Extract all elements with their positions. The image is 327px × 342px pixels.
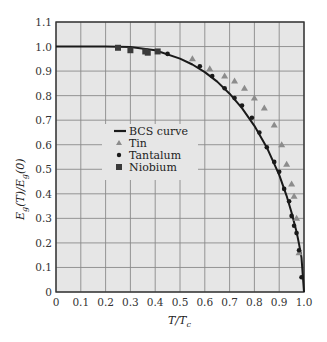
y-tick-label: 1.1 [35,16,52,28]
tantalum-point-icon [292,223,297,228]
y-tick-label: 0.9 [35,65,52,77]
x-tick-label: 0.6 [196,296,213,308]
tantalum-point-icon [294,231,299,236]
tantalum-point-icon [272,160,277,165]
tantalum-point-icon [289,214,294,219]
legend-label-niobium: Niobium [129,161,177,174]
y-tick-label: 0.5 [35,163,52,175]
y-tick-label: 1.0 [35,41,52,53]
chart: 00.10.20.30.40.50.60.70.80.91.0 00.10.20… [0,0,327,342]
tantalum-point-icon [277,169,282,174]
x-tick-label: 0 [53,296,60,308]
x-tick-label: 0.8 [246,296,263,308]
x-axis-label: T/Tc [168,314,191,329]
y-tick-label: 0.6 [35,139,52,151]
x-tick-label: 0.3 [122,296,139,308]
x-tick-label: 0.7 [221,296,238,308]
tantalum-point-icon [287,199,292,204]
legend-square-icon [116,164,122,170]
y-tick-label: 0.4 [35,188,52,200]
y-tick-label: 0.1 [35,261,52,273]
y-tick-label: 0 [45,286,52,298]
x-tick-label: 0.1 [72,296,89,308]
tantalum-point-icon [297,248,302,253]
y-tick-label: 0.7 [35,114,52,126]
tantalum-point-icon [165,52,170,57]
tantalum-point-icon [232,96,237,101]
y-tick-label: 0.3 [35,212,52,224]
legend-dot-icon [117,153,121,157]
tantalum-point-icon [257,130,262,135]
niobium-point-icon [127,47,133,53]
tantalum-point-icon [299,275,304,280]
tantalum-point-icon [210,74,215,79]
x-tick-label: 1.0 [296,296,313,308]
x-axis-ticks: 00.10.20.30.40.50.60.70.80.91.0 [53,296,313,308]
tantalum-point-icon [250,115,255,120]
x-tick-label: 0.2 [97,296,114,308]
niobium-point-icon [155,48,161,54]
y-axis-label: Eg(T)/Eg(0) [14,158,29,221]
niobium-point-icon [115,45,121,51]
y-axis-ticks: 00.10.20.30.40.50.60.70.80.91.01.1 [35,16,52,298]
x-tick-label: 0.9 [271,296,288,308]
tantalum-point-icon [265,145,270,150]
niobium-point-icon [145,50,151,56]
x-tick-label: 0.4 [147,296,164,308]
y-tick-label: 0.8 [35,90,52,102]
legend: BCS curve Tin Tantalum Niobium [102,124,198,180]
x-tick-label: 0.5 [172,296,189,308]
tantalum-point-icon [282,187,287,192]
y-tick-label: 0.2 [35,237,52,249]
tantalum-point-icon [240,103,245,108]
tantalum-point-icon [198,64,203,69]
tantalum-point-icon [222,86,227,91]
